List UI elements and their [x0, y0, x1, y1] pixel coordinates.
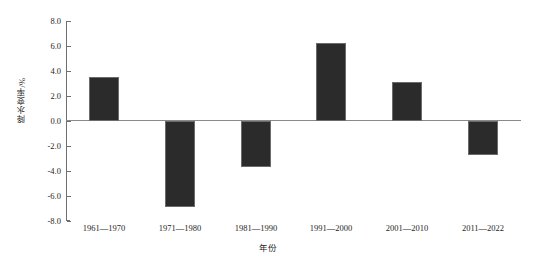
y-axis-tick-label: -6.0	[48, 192, 61, 201]
y-axis-tick-label: 6.0	[50, 42, 61, 51]
bars-layer	[66, 21, 521, 221]
bar	[316, 43, 346, 121]
x-axis-tick-label: 1971—1980	[159, 223, 202, 234]
x-axis-tick-label: 2001—2010	[386, 223, 429, 234]
x-axis-tick-label: 1961—1970	[83, 223, 126, 234]
y-axis-title: 降水变率/%	[18, 78, 32, 123]
y-axis-tick-label: -2.0	[48, 142, 61, 151]
x-axis-tick-label: 1991—2000	[310, 223, 353, 234]
bar	[165, 121, 195, 207]
plot-area: 8.06.04.02.00.0-2.0-4.0-6.0-8.0	[66, 21, 521, 221]
precipitation-variability-bar-chart: 降水变率/% 8.06.04.02.00.0-2.0-4.0-6.0-8.0 1…	[0, 0, 535, 268]
bar	[241, 121, 271, 167]
y-axis-tick-label: 4.0	[50, 67, 61, 76]
y-axis-tick-label: 8.0	[50, 17, 61, 26]
y-axis-tick-label: -8.0	[48, 217, 61, 226]
x-axis-tick-labels: 1961—19701971—19801981—19901991—20002001…	[66, 223, 521, 237]
bar	[89, 77, 119, 121]
x-axis-title: 年份	[0, 243, 535, 254]
y-axis-tick	[67, 221, 71, 222]
x-axis-tick-label: 1981—1990	[235, 223, 278, 234]
x-axis-tick-label: 2011—2022	[462, 223, 504, 234]
bar	[392, 82, 422, 121]
y-axis-tick-label: -4.0	[48, 167, 61, 176]
y-axis-tick-label: 0.0	[50, 117, 61, 126]
y-axis-tick-label: 2.0	[50, 92, 61, 101]
bar	[468, 121, 498, 155]
